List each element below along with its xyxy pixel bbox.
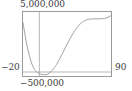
plot-frame[interactable] [22,11,112,77]
plot-canvas [23,12,112,77]
x-axis-max-label: 90 [115,63,126,72]
function-plot-widget: 5,000,000 −500,000 −20 90 [0,0,132,91]
function-curve [23,14,112,75]
y-axis-max-label: 5,000,000 [20,0,65,9]
y-axis-min-label: −500,000 [20,79,64,88]
x-axis-min-label: −20 [1,63,20,72]
